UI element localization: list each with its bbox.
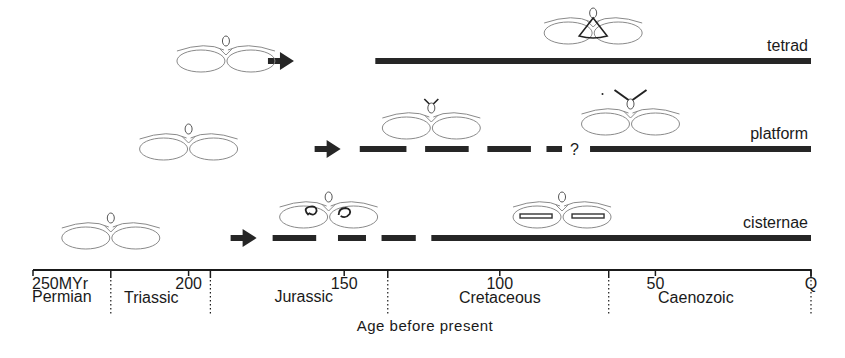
organism-icon-plain: [140, 124, 238, 160]
row-tetrad: tetrad: [177, 8, 811, 72]
organism-icon-plain: [177, 36, 275, 72]
axis-tick-label: 150: [331, 275, 358, 292]
period-label: Permian: [32, 288, 92, 305]
period-label: Cretaceous: [459, 289, 541, 306]
organism-icon-cisternae-coiled: [280, 192, 378, 228]
period-label: Triassic: [124, 289, 179, 306]
coiled-cisterna-right: [339, 208, 351, 217]
lineage-solid-bar: [590, 146, 811, 152]
central-body-icon: [185, 124, 192, 134]
evolution-arrow-icon: [268, 52, 294, 70]
row-label: tetrad: [767, 37, 808, 54]
tetrad-triangle-icon: [579, 18, 607, 38]
organism-icon-platform-large: [582, 90, 680, 135]
organism-icon-platform-small: [382, 99, 480, 139]
left-lobe-icon: [140, 138, 188, 160]
flagellum-right: [633, 90, 647, 100]
left-lobe-icon: [544, 22, 592, 44]
period-label: Caenozoic: [658, 289, 734, 306]
lineage-dashed-segment: [360, 146, 407, 152]
right-lobe-icon: [632, 113, 680, 135]
organism-icon-plain: [62, 213, 160, 249]
row-label: cisternae: [743, 214, 808, 231]
flat-cisterna-left: [520, 214, 552, 218]
flat-cisterna-right: [572, 214, 604, 218]
lineage-dashed-segment: [338, 235, 366, 241]
left-lobe-icon: [382, 117, 430, 139]
lineage-solid-bar: [375, 58, 811, 64]
central-body-icon: [325, 192, 332, 202]
period-label: Jurassic: [274, 288, 333, 305]
uncertainty-mark: ?: [570, 141, 579, 158]
lineage-dashed-segment: [546, 146, 562, 152]
left-lobe-icon: [280, 206, 328, 228]
evolution-arrow-icon: [315, 140, 341, 158]
row-platform: ?platform: [140, 90, 811, 160]
time-axis: 250MYr20015010050QPermianTriassicJurassi…: [32, 269, 817, 314]
right-lobe-icon: [330, 206, 378, 228]
flagellum-left: [615, 90, 629, 100]
left-lobe-icon: [177, 50, 225, 72]
x-axis-label: Age before present: [357, 317, 494, 334]
right-lobe-icon: [432, 117, 480, 139]
speck: [602, 93, 604, 95]
lineage-dashed-segment: [273, 235, 317, 241]
central-body-icon: [428, 103, 435, 113]
central-body-icon: [590, 8, 597, 18]
flagellum-left: [424, 99, 429, 104]
central-body-icon: [222, 36, 229, 46]
lineage-dashed-segment: [487, 146, 531, 152]
coiled-cisterna-left: [306, 207, 317, 216]
right-lobe-icon: [227, 50, 275, 72]
right-lobe-icon: [112, 227, 160, 249]
lineage-dashed-segment: [425, 146, 469, 152]
evolution-timeline-diagram: tetrad?platformcisternae 250MYr200150100…: [0, 0, 845, 358]
right-lobe-icon: [594, 22, 642, 44]
flagellum-right: [433, 99, 438, 104]
lineage-dashed-segment: [382, 235, 416, 241]
rows-layer: tetrad?platformcisternae: [62, 8, 811, 249]
central-body-icon: [559, 192, 566, 202]
row-label: platform: [750, 125, 808, 142]
row-cisternae: cisternae: [62, 192, 811, 249]
organism-icon-tetrad: [544, 8, 642, 44]
central-body-icon: [107, 213, 114, 223]
organism-icon-cisternae-flat: [513, 192, 611, 228]
axis-tick-label: 200: [175, 275, 202, 292]
evolution-arrow-icon: [231, 229, 257, 247]
left-lobe-icon: [582, 113, 630, 135]
right-lobe-icon: [190, 138, 238, 160]
lineage-solid-bar: [431, 235, 811, 241]
left-lobe-icon: [62, 227, 110, 249]
